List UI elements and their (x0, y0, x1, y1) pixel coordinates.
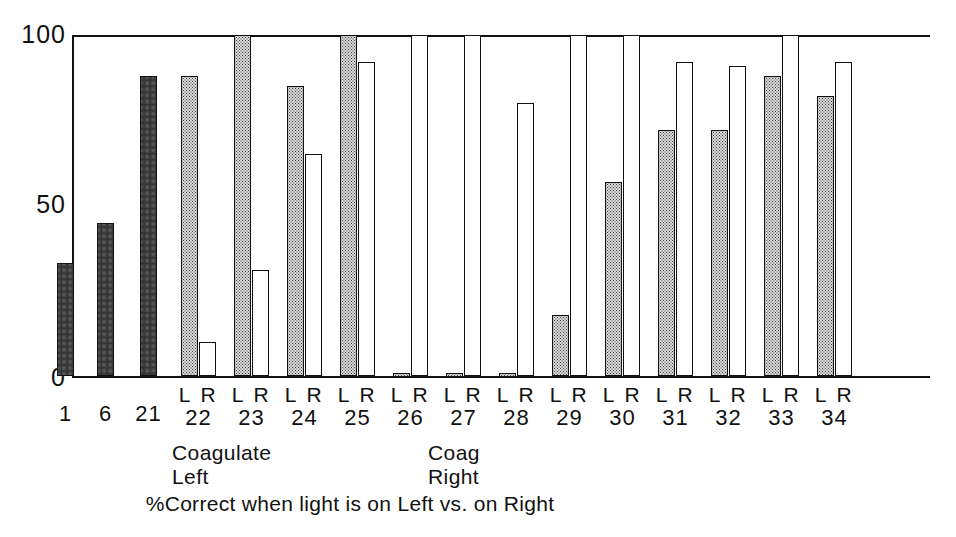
bar-left-27 (446, 373, 463, 376)
bar-right-33 (782, 35, 799, 376)
x-axis-subject-label-28: 28 (487, 407, 547, 430)
annotation-coag-right: Coag Right (428, 441, 480, 488)
bar-left-28 (499, 373, 516, 376)
bar-right-23 (252, 270, 269, 376)
x-axis-subject-label-24: 24 (275, 407, 335, 430)
x-axis-group-25: L R25 (328, 384, 388, 430)
x-axis-subject-label-23: 23 (222, 407, 282, 430)
x-axis-subject-label-26: 26 (381, 407, 441, 430)
x-axis-group-26: L R26 (381, 384, 441, 430)
bar-right-22 (199, 342, 216, 376)
x-axis-subject-label-27: 27 (434, 407, 494, 430)
x-axis-subject-label-31: 31 (646, 407, 706, 430)
bar-right-32 (729, 66, 746, 376)
bar-chart-figure: 100 50 0 1621L R22L R23L R24L R25L R26L … (0, 0, 956, 537)
bar-left-29 (552, 315, 569, 376)
x-axis-group-32: L R32 (699, 384, 759, 430)
x-axis-group-28: L R28 (487, 384, 547, 430)
bar-left-6 (97, 223, 114, 376)
bar-right-27 (464, 35, 481, 376)
x-axis-subject-label-29: 29 (540, 407, 600, 430)
x-axis-lr-label-26: L R (381, 384, 441, 406)
bar-left-32 (711, 130, 728, 376)
bar-left-1 (57, 263, 74, 376)
bar-right-25 (358, 62, 375, 376)
x-axis-lr-label-25: L R (328, 384, 388, 406)
x-axis-group-33: L R33 (752, 384, 812, 430)
y-axis-tick-50: 50 (14, 192, 66, 217)
bar-left-33 (764, 76, 781, 376)
x-axis-labels: 1621L R22L R23L R24L R25L R26L R27L R28L… (0, 384, 956, 444)
bar-right-34 (835, 62, 852, 376)
x-axis-subject-label-34: 34 (805, 407, 865, 430)
x-axis-group-30: L R30 (593, 384, 653, 430)
annotation-coagulate-left: Coagulate Left (172, 441, 271, 488)
x-axis-group-23: L R23 (222, 384, 282, 430)
bar-right-31 (676, 62, 693, 376)
bar-right-30 (623, 35, 640, 376)
x-axis-lr-label-24: L R (275, 384, 335, 406)
x-axis-group-27: L R27 (434, 384, 494, 430)
x-axis-lr-label-31: L R (646, 384, 706, 406)
bar-left-23 (234, 35, 251, 376)
bar-right-29 (570, 35, 587, 376)
x-axis-subject-label-30: 30 (593, 407, 653, 430)
x-axis-subject-label-25: 25 (328, 407, 388, 430)
x-axis-group-24: L R24 (275, 384, 335, 430)
x-axis-lr-label-28: L R (487, 384, 547, 406)
x-axis-group-31: L R31 (646, 384, 706, 430)
bar-left-22 (181, 76, 198, 376)
bar-left-31 (658, 130, 675, 376)
bar-left-24 (287, 86, 304, 376)
bar-right-28 (517, 103, 534, 376)
figure-caption: %Correct when light is on Left vs. on Ri… (0, 492, 700, 516)
bar-right-26 (411, 35, 428, 376)
x-axis-subject-label-32: 32 (699, 407, 759, 430)
x-axis-lr-label-33: L R (752, 384, 812, 406)
y-axis-tick-100: 100 (14, 22, 66, 47)
x-axis-lr-label-29: L R (540, 384, 600, 406)
x-axis-group-22: L R22 (169, 384, 229, 430)
x-axis-lr-label-23: L R (222, 384, 282, 406)
x-axis-subject-label-33: 33 (752, 407, 812, 430)
x-axis-lr-label-22: L R (169, 384, 229, 406)
x-axis-group-34: L R34 (805, 384, 865, 430)
x-axis-lr-label-30: L R (593, 384, 653, 406)
bars-layer (74, 35, 930, 376)
bar-right-24 (305, 154, 322, 376)
bar-left-26 (393, 373, 410, 376)
bar-left-34 (817, 96, 834, 376)
bar-left-30 (605, 182, 622, 376)
x-axis-lr-label-27: L R (434, 384, 494, 406)
x-axis-group-29: L R29 (540, 384, 600, 430)
x-axis-lr-label-34: L R (805, 384, 865, 406)
bar-left-21 (140, 76, 157, 376)
x-axis-lr-label-32: L R (699, 384, 759, 406)
bar-left-25 (340, 35, 357, 376)
x-axis-subject-label-22: 22 (169, 407, 229, 430)
